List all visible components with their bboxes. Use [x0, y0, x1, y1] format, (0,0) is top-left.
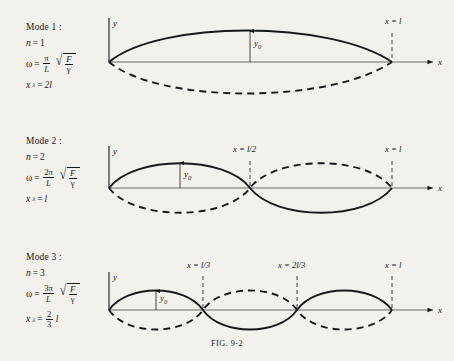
- mode-3-y-axis-label: y: [112, 272, 117, 282]
- mode-3-marker-label-l-over-3: x = l/3: [186, 260, 210, 270]
- mode-2-y-axis-label: y: [112, 146, 117, 156]
- mode-3-amplitude-label: y0: [159, 293, 168, 305]
- figure-caption: FIG. 9-2: [0, 339, 454, 348]
- figure-caption-text: FIG. 9-2: [211, 339, 243, 348]
- mode-3-marker-label-l: x = l: [384, 260, 402, 270]
- mode-3-x-axis-label: x: [437, 305, 442, 315]
- standing-wave-figure: y x y0 x = l y x y0 x = l/2 x = l y x y: [0, 0, 454, 361]
- mode-1-dashed-wave: [109, 62, 392, 94]
- mode-3-marker-label-2l-over-3: x = 2l/3: [277, 260, 305, 270]
- mode-2-diagram: y x y0 x = l/2 x = l: [109, 144, 442, 213]
- mode-1-marker-label-l: x = l: [384, 16, 402, 26]
- mode-1-amplitude-label: y0: [253, 38, 262, 50]
- mode-1-solid-wave: [109, 31, 392, 63]
- mode-2-x-axis-label: x: [437, 183, 442, 193]
- mode-2-marker-label-half-l: x = l/2: [232, 144, 257, 154]
- mode-2-amplitude-label: y0: [183, 169, 192, 181]
- mode-1-x-axis-label: x: [437, 57, 442, 67]
- mode-2-marker-label-l: x = l: [384, 144, 402, 154]
- mode-3-diagram: y x y0 x = l/3 x = 2l/3 x = l: [109, 260, 442, 330]
- mode-1-y-axis-label: y: [112, 18, 117, 28]
- mode-1-diagram: y x y0 x = l: [109, 16, 442, 94]
